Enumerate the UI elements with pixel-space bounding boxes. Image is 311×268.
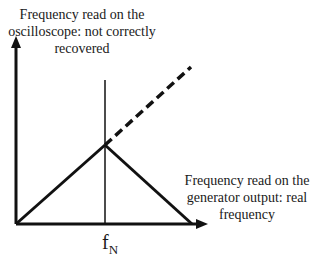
nyquist-frequency-label: fN (90, 231, 130, 261)
y-axis-label: Frequency read on the oscilloscope: not … (8, 6, 156, 57)
nyquist-label-sub: N (109, 242, 118, 257)
measured-rising-line (16, 145, 105, 224)
nyquist-label-main: f (102, 231, 109, 253)
x-axis-label: Frequency read on the generator output: … (176, 172, 311, 223)
ideal-dashed-line (105, 67, 191, 145)
